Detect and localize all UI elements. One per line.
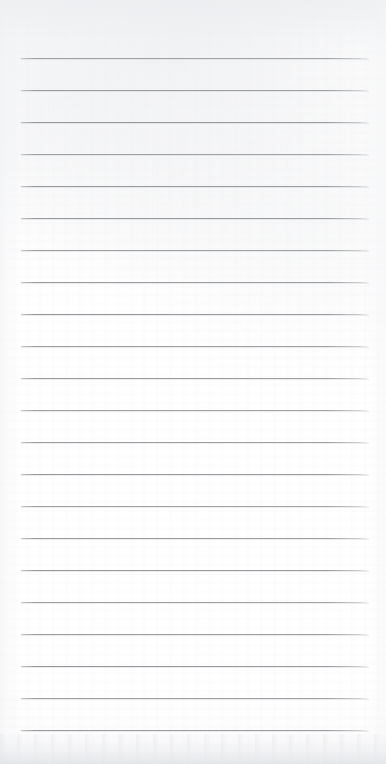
rule-line bbox=[21, 378, 369, 379]
rule-line bbox=[21, 730, 369, 731]
rule-line bbox=[21, 410, 369, 411]
rule-line bbox=[21, 538, 369, 539]
rule-line bbox=[21, 346, 369, 347]
rule-line bbox=[21, 90, 369, 91]
rule-line bbox=[21, 58, 369, 59]
rule-line bbox=[21, 506, 369, 507]
scanned-page bbox=[0, 0, 386, 764]
rule-line bbox=[21, 282, 369, 283]
rule-line bbox=[21, 122, 369, 123]
rule-line bbox=[21, 634, 369, 635]
rule-line bbox=[21, 314, 369, 315]
rule-line bbox=[21, 154, 369, 155]
ruled-lines-layer bbox=[0, 0, 386, 764]
rule-line bbox=[21, 698, 369, 699]
rule-line bbox=[21, 250, 369, 251]
rule-line bbox=[21, 474, 369, 475]
rule-line bbox=[21, 570, 369, 571]
rule-line bbox=[21, 602, 369, 603]
rule-line bbox=[21, 186, 369, 187]
rule-line bbox=[21, 442, 369, 443]
rule-line bbox=[21, 666, 369, 667]
rule-line bbox=[21, 218, 369, 219]
